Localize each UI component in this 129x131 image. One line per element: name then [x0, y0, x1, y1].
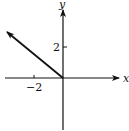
coordinate-plane: x y −2 2: [0, 0, 129, 131]
y-axis-label: y: [58, 0, 66, 11]
x-axis-label: x: [123, 72, 129, 85]
x-tick-label-neg2: −2: [26, 81, 42, 94]
y-tick-label-2: 2: [53, 41, 60, 54]
vector-arrow: [7, 32, 63, 78]
